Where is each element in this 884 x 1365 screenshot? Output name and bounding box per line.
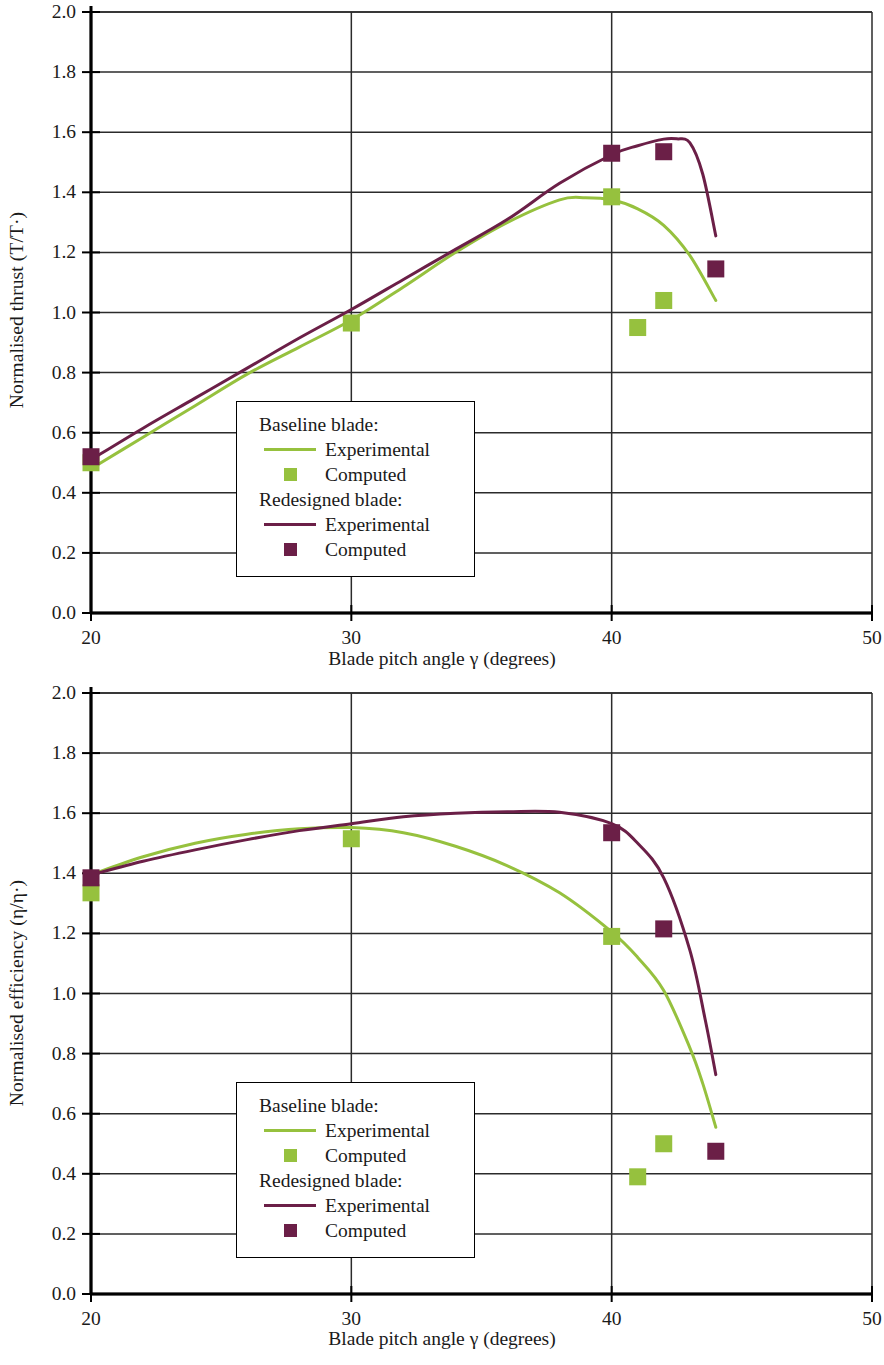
figure-page: Normalised thrust (T/T·) 0.00.20.40.60.8… <box>0 0 884 1365</box>
legend-baseline-computed-label: Computed <box>321 1143 406 1168</box>
thrust-x-axis-label: Blade pitch angle γ (degrees) <box>0 648 884 670</box>
legend-redesigned-computed-row: Computed <box>259 1218 474 1243</box>
thrust-chart: Normalised thrust (T/T·) 0.00.20.40.60.8… <box>0 0 884 682</box>
x-tick-label: 20 <box>81 627 101 649</box>
legend-redesigned-computed-label: Computed <box>321 537 406 562</box>
efficiency-svg <box>0 683 884 1365</box>
x-tick-label: 40 <box>602 627 622 649</box>
legend-redesigned-title: Redesigned blade: <box>259 1168 474 1193</box>
redesigned-marker-swatch <box>259 543 321 556</box>
legend-redesigned-computed-label: Computed <box>321 1218 406 1243</box>
efficiency-chart: Normalised efficiency (η/η·) 0.00.20.40.… <box>0 683 884 1365</box>
efficiency-plot-area: Normalised efficiency (η/η·) 0.00.20.40.… <box>0 683 884 1365</box>
x-tick-label: 50 <box>862 1308 882 1330</box>
baseline-line-swatch <box>259 448 321 451</box>
thrust-svg <box>0 0 884 682</box>
legend-redesigned-experimental-label: Experimental <box>321 512 430 537</box>
thrust-plot-area: Normalised thrust (T/T·) 0.00.20.40.60.8… <box>0 0 884 682</box>
x-tick-label: 20 <box>81 1308 101 1330</box>
baseline-marker-swatch <box>259 1149 321 1162</box>
redesigned-line-swatch <box>259 523 321 526</box>
x-tick-label: 30 <box>342 627 362 649</box>
legend-baseline-experimental-label: Experimental <box>321 1118 430 1143</box>
legend-baseline-computed-row: Computed <box>259 1143 474 1168</box>
thrust-legend: Baseline blade: Experimental Computed Re… <box>236 401 475 577</box>
x-tick-label: 50 <box>862 627 882 649</box>
legend-baseline-title: Baseline blade: <box>259 1093 474 1118</box>
efficiency-x-axis-label: Blade pitch angle γ (degrees) <box>0 1328 884 1350</box>
legend-baseline-computed-row: Computed <box>259 462 474 487</box>
legend-baseline-experimental-row: Experimental <box>259 437 474 462</box>
efficiency-legend: Baseline blade: Experimental Computed Re… <box>236 1082 475 1258</box>
legend-baseline-computed-label: Computed <box>321 462 406 487</box>
legend-baseline-experimental-row: Experimental <box>259 1118 474 1143</box>
legend-redesigned-computed-row: Computed <box>259 537 474 562</box>
redesigned-line-swatch <box>259 1204 321 1207</box>
legend-redesigned-experimental-row: Experimental <box>259 1193 474 1218</box>
redesigned-marker-swatch <box>259 1224 321 1237</box>
legend-baseline-experimental-label: Experimental <box>321 437 430 462</box>
legend-redesigned-experimental-label: Experimental <box>321 1193 430 1218</box>
legend-redesigned-experimental-row: Experimental <box>259 512 474 537</box>
baseline-line-swatch <box>259 1129 321 1132</box>
legend-redesigned-title: Redesigned blade: <box>259 487 474 512</box>
legend-baseline-title: Baseline blade: <box>259 412 474 437</box>
x-tick-label: 40 <box>602 1308 622 1330</box>
x-tick-label: 30 <box>342 1308 362 1330</box>
baseline-marker-swatch <box>259 468 321 481</box>
